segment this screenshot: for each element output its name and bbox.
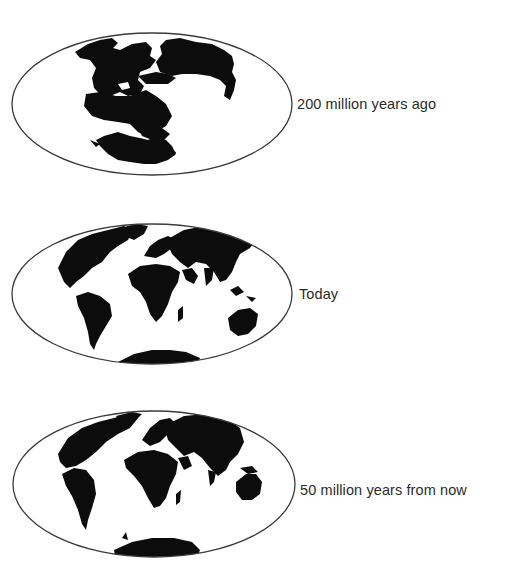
panel-label-future: 50 million years from now: [300, 482, 467, 498]
map-panel-future: 50 million years from now: [0, 0, 523, 581]
